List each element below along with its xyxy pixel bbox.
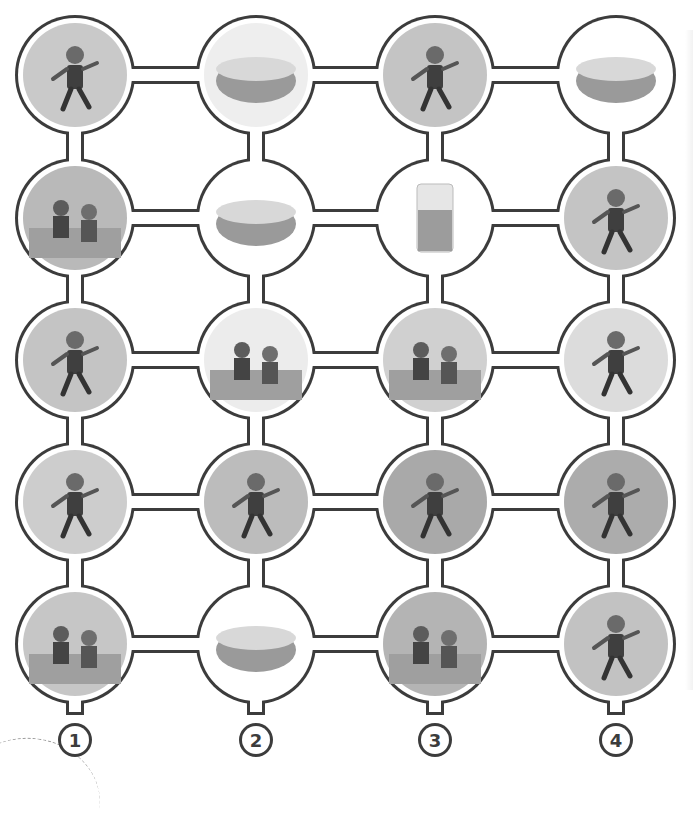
- body-icon: [67, 350, 83, 374]
- picture-cell-r4c4[interactable]: girl juggling: [564, 450, 668, 554]
- picture-cell-r3c3[interactable]: boy and woman with clock: [383, 308, 487, 412]
- picture-cell-r2c2[interactable]: bowl of soup: [204, 166, 308, 270]
- ground-icon: [389, 654, 481, 684]
- column-label-4: 4: [610, 730, 623, 751]
- head-icon: [247, 473, 265, 491]
- body-icon: [608, 492, 624, 516]
- picture-cell-r2c3[interactable]: glass of juice: [383, 166, 487, 270]
- picture-cell-r4c2[interactable]: girl playing table tennis: [204, 450, 308, 554]
- body-icon: [608, 208, 624, 232]
- head-icon: [607, 615, 625, 633]
- picture-cell-r4c3[interactable]: boy juggling: [383, 450, 487, 554]
- column-label-3: 3: [429, 730, 442, 751]
- body-icon: [67, 65, 83, 89]
- ground-icon: [210, 370, 302, 400]
- head-icon: [607, 189, 625, 207]
- picture-cell-r2c4[interactable]: boy playing basketball: [564, 166, 668, 270]
- ground-icon: [29, 228, 121, 258]
- picture-cell-r1c3[interactable]: girl kicking football: [383, 23, 487, 127]
- body-icon: [67, 492, 83, 516]
- picture-cell-r1c4[interactable]: bowl of rice: [564, 23, 668, 127]
- head-icon: [426, 473, 444, 491]
- head-icon: [66, 473, 84, 491]
- picture-cell-r3c1[interactable]: girl playing volleyball: [23, 308, 127, 412]
- head-icon: [426, 46, 444, 64]
- head-icon: [66, 331, 84, 349]
- column-labels: 1234: [69, 730, 623, 751]
- picture-cell-r5c2[interactable]: loaf of bread: [204, 592, 308, 696]
- ground-icon: [29, 654, 121, 684]
- picture-cell-r1c2[interactable]: roast chicken: [204, 23, 308, 127]
- column-label-1: 1: [69, 730, 82, 751]
- body-icon: [248, 492, 264, 516]
- body-icon: [608, 634, 624, 658]
- body-icon: [608, 350, 624, 374]
- body-icon: [427, 492, 443, 516]
- head-icon: [66, 46, 84, 64]
- picture-cell-r5c1[interactable]: football team: [23, 592, 127, 696]
- picture-cell-r5c3[interactable]: tennis racket hitting ball: [383, 592, 487, 696]
- picture-cell-r3c2[interactable]: waiter serving girl: [204, 308, 308, 412]
- picture-cell-r3c4[interactable]: girl reaching shelf: [564, 308, 668, 412]
- picture-cell-r1c1[interactable]: boy jumping: [23, 23, 127, 127]
- body-icon: [427, 65, 443, 89]
- ground-icon: [389, 370, 481, 400]
- column-label-2: 2: [250, 730, 263, 751]
- picture-cell-r5c4[interactable]: girl running: [564, 592, 668, 696]
- head-icon: [607, 331, 625, 349]
- picture-cell-r2c1[interactable]: baseball stadium: [23, 166, 127, 270]
- head-icon: [607, 473, 625, 491]
- picture-cell-r4c1[interactable]: boy with ice cream: [23, 450, 127, 554]
